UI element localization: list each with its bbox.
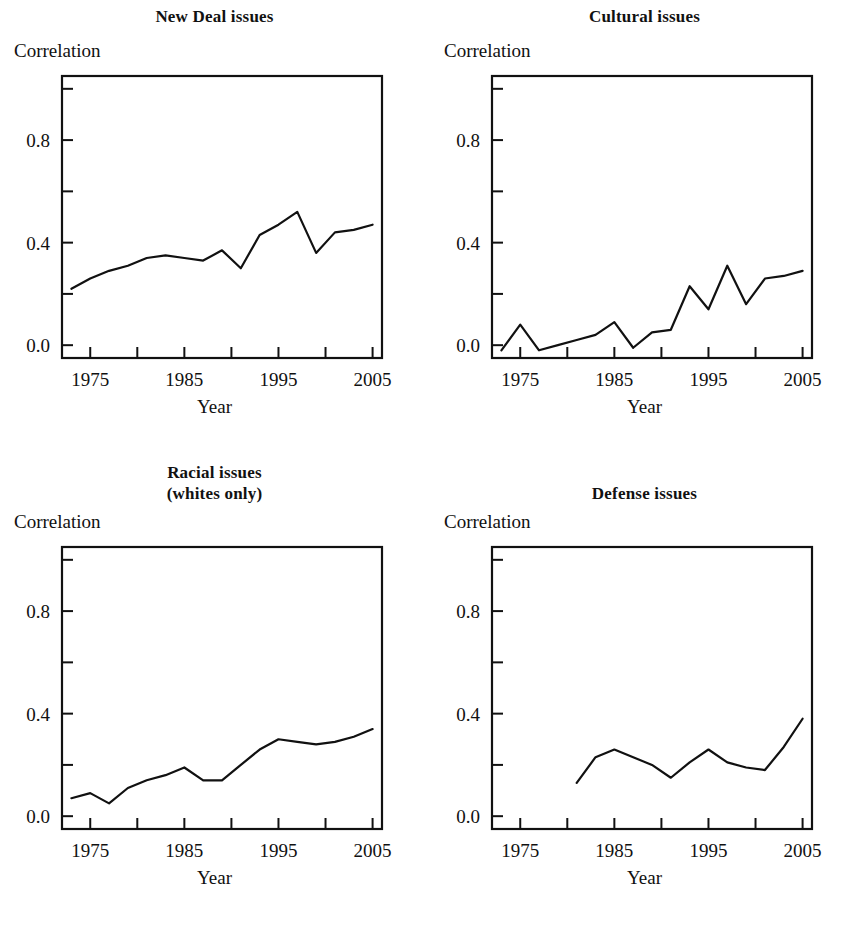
plot-area: 0.00.40.81975198519952005 xyxy=(0,0,429,462)
x-axis-tick-label: 2005 xyxy=(354,369,392,390)
y-axis-tick-label: 0.0 xyxy=(26,335,50,356)
x-axis-tick-label: 1985 xyxy=(595,840,633,861)
x-axis-label: Year xyxy=(0,396,429,418)
x-axis-tick-label: 2005 xyxy=(784,369,822,390)
y-axis-tick-label: 0.0 xyxy=(456,806,480,827)
y-axis-tick-label: 0.0 xyxy=(26,806,50,827)
x-axis-tick-label: 1995 xyxy=(259,369,297,390)
x-axis-tick-label: 1995 xyxy=(689,840,727,861)
data-line-series xyxy=(577,719,803,783)
data-line-series xyxy=(71,729,372,803)
x-axis-tick-label: 1975 xyxy=(501,840,539,861)
plot-frame xyxy=(492,76,812,358)
plot-frame xyxy=(62,547,382,829)
y-axis-tick-label: 0.4 xyxy=(456,704,480,725)
y-axis-tick-label: 0.8 xyxy=(456,130,480,151)
data-line-series xyxy=(71,212,372,289)
panel-racial-issues: Racial issues (whites only) Correlation … xyxy=(0,462,429,924)
data-line-series xyxy=(501,266,802,351)
x-axis-tick-label: 1995 xyxy=(259,840,297,861)
x-axis-label: Year xyxy=(0,867,429,889)
plot-area: 0.00.40.81975198519952005 xyxy=(430,0,859,462)
x-axis-label: Year xyxy=(430,867,859,889)
x-axis-tick-label: 1985 xyxy=(165,840,203,861)
panel-new-deal-issues: New Deal issues Correlation 0.00.40.8197… xyxy=(0,0,429,462)
plot-area: 0.00.40.81975198519952005 xyxy=(0,471,429,925)
x-axis-tick-label: 1985 xyxy=(165,369,203,390)
x-axis-tick-label: 2005 xyxy=(354,840,392,861)
y-axis-tick-label: 0.4 xyxy=(26,704,50,725)
panel-defense-issues: Defense issues Correlation 0.00.40.81975… xyxy=(430,462,859,924)
plot-area: 0.00.40.81975198519952005 xyxy=(430,471,859,925)
y-axis-tick-label: 0.8 xyxy=(456,601,480,622)
y-axis-tick-label: 0.4 xyxy=(26,233,50,254)
x-axis-tick-label: 1975 xyxy=(71,840,109,861)
x-axis-tick-label: 1985 xyxy=(595,369,633,390)
x-axis-tick-label: 1975 xyxy=(71,369,109,390)
y-axis-tick-label: 0.4 xyxy=(456,233,480,254)
y-axis-tick-label: 0.0 xyxy=(456,335,480,356)
plot-frame xyxy=(62,76,382,358)
x-axis-tick-label: 1995 xyxy=(689,369,727,390)
figure-four-panel-correlation-charts: New Deal issues Correlation 0.00.40.8197… xyxy=(0,0,859,925)
y-axis-tick-label: 0.8 xyxy=(26,601,50,622)
x-axis-label: Year xyxy=(430,396,859,418)
y-axis-tick-label: 0.8 xyxy=(26,130,50,151)
x-axis-tick-label: 2005 xyxy=(784,840,822,861)
plot-frame xyxy=(492,547,812,829)
panel-cultural-issues: Cultural issues Correlation 0.00.40.8197… xyxy=(430,0,859,462)
x-axis-tick-label: 1975 xyxy=(501,369,539,390)
